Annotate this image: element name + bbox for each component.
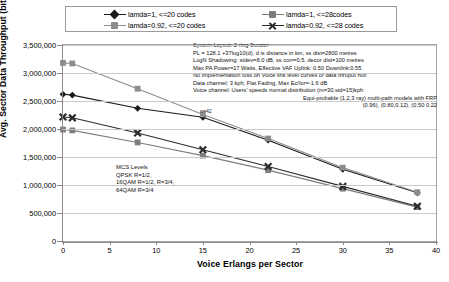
- note-line: Data channel: 3 kph, Flat Fading, Max Ec…: [193, 80, 443, 88]
- x-tick-label: 35: [385, 246, 393, 255]
- data-point: [340, 165, 346, 171]
- gridline: [63, 101, 436, 102]
- note-line: LogN Shadowing: stdev=8.0 dB, ss corr=0.…: [193, 57, 443, 65]
- gridline: [63, 129, 436, 130]
- legend-entry[interactable]: lamda=0.92, <=28 codes: [262, 20, 363, 31]
- note-line: PL = 128.1 +37log10(d), d is distance in…: [193, 50, 443, 58]
- data-point: [60, 91, 67, 98]
- legend-entry[interactable]: lamda=1, <=20 codes: [104, 9, 205, 20]
- x-tick-label: 10: [152, 246, 160, 255]
- x-axis-line: [62, 242, 438, 243]
- legend-marker-square-icon: [262, 10, 284, 19]
- legend-label: lamda=1, <=20 codes: [128, 11, 195, 19]
- x-tick-label: 40: [432, 246, 440, 255]
- chart-root: lamda=1, <=20 codeslamda=0.92, <=20 code…: [0, 0, 449, 282]
- y-tick-label: 2,500,000: [23, 97, 56, 106]
- plot-area: System Layout: 2-ring 3sectorPL = 128.1 …: [62, 44, 437, 242]
- y-tick-label: 1,000,000: [23, 181, 56, 190]
- gridline: [63, 73, 436, 74]
- legend-column-right: lamda=1, <=28codeslamda=0.92, <=28 codes: [262, 9, 363, 31]
- gridline: [63, 157, 436, 158]
- note-line: Voice channel: Users' speeds normal dist…: [193, 87, 443, 95]
- data-point: [265, 136, 271, 142]
- y-tick-label: 3,000,000: [23, 69, 56, 78]
- note-line: (0.96), (0.80,0.12), (0.50 0.22: [193, 102, 443, 110]
- gridline: [63, 45, 436, 46]
- y-tick-label: 1,500,000: [23, 153, 56, 162]
- gridline: [63, 185, 436, 186]
- data-point: [200, 146, 207, 153]
- mcs-line: MCS Levels: [116, 164, 174, 172]
- chart-legend: lamda=1, <=20 codeslamda=0.92, <=20 code…: [65, 6, 397, 32]
- y-tick-label: 0: [52, 237, 56, 246]
- legend-entry[interactable]: lamda=0.92, <=20 codes: [104, 20, 205, 31]
- mcs-line: QPSK R=1/2,: [116, 172, 174, 180]
- note-line: Max PA Power=17 Watts, Effective VAF Upl…: [193, 65, 443, 73]
- point-annotation: n=42: [200, 108, 212, 114]
- data-point: [135, 86, 141, 92]
- data-point: [69, 92, 76, 99]
- x-axis-title: Voice Erlangs per Sector: [62, 259, 438, 269]
- data-point: [414, 189, 420, 195]
- x-tick-label: 25: [292, 246, 300, 255]
- x-tick-label: 30: [339, 246, 347, 255]
- y-tick-label: 2,000,000: [23, 125, 56, 134]
- data-point: [60, 60, 66, 66]
- mcs-line: 64QAM R=3/4: [116, 187, 174, 195]
- legend-marker-square-icon: [104, 21, 126, 30]
- legend-column-left: lamda=1, <=20 codeslamda=0.92, <=20 code…: [104, 9, 205, 31]
- y-axis-title: Avg. Sector Data Throughput (bit/s): [0, 0, 8, 138]
- annotation-notes: System Layout: 2-ring 3sectorPL = 128.1 …: [193, 42, 443, 110]
- x-tick-label: 15: [199, 246, 207, 255]
- x-tick-label: 0: [61, 246, 65, 255]
- x-tick-label: 5: [108, 246, 112, 255]
- legend-label: lamda=1, <=28codes: [286, 11, 352, 19]
- data-point: [134, 105, 141, 112]
- legend-entry[interactable]: lamda=1, <=28codes: [262, 9, 363, 20]
- legend-marker-cross-icon: [262, 21, 284, 30]
- y-tick-label: 3,500,000: [23, 41, 56, 50]
- legend-label: lamda=0.92, <=20 codes: [128, 22, 205, 30]
- x-tick-label: 20: [245, 246, 253, 255]
- data-point: [135, 140, 141, 146]
- mcs-levels-note: MCS LevelsQPSK R=1/2,16QAM R=1/2, R=3/4,…: [116, 164, 174, 194]
- gridline: [63, 213, 436, 214]
- y-tick-label: 500,000: [29, 209, 56, 218]
- legend-marker-diamond-icon: [104, 10, 126, 19]
- legend-label: lamda=0.92, <=28 codes: [286, 22, 363, 30]
- data-point: [69, 61, 75, 67]
- y-axis-line: [62, 44, 63, 243]
